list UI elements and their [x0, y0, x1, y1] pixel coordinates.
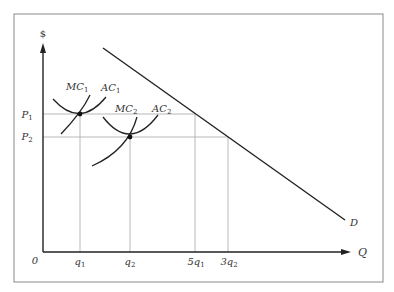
- mc1-curve: [61, 95, 90, 134]
- 5q1-label: 5q1: [187, 256, 204, 269]
- ac1-label: AC1: [100, 82, 120, 95]
- 3q2-label: 3q2: [220, 256, 237, 269]
- x-axis-label: Q: [358, 246, 367, 259]
- firm2-min-point: [128, 135, 133, 140]
- y-axis-label: $: [40, 28, 46, 39]
- mc1-label: MC1: [65, 81, 88, 94]
- q2-label: q2: [125, 256, 136, 269]
- p1-label: P1: [20, 109, 32, 122]
- p2-label: P2: [20, 131, 32, 144]
- guide-lines: [43, 114, 228, 252]
- cost-demand-diagram: $ Q 0 P1 P2 q1 q2 5q1 3q2 MC1 AC1 MC2 AC…: [0, 0, 394, 292]
- q1-label: q1: [75, 256, 86, 269]
- demand-curve: [103, 48, 345, 220]
- ac1-curve: [53, 97, 106, 114]
- firm1-min-point: [78, 112, 83, 117]
- ac2-curve: [103, 115, 158, 134]
- origin-label: 0: [32, 255, 39, 266]
- figure-frame: [14, 14, 383, 282]
- demand-label: D: [349, 217, 358, 228]
- x-axis-arrow-icon: [341, 249, 351, 255]
- y-axis-arrow-icon: [40, 43, 46, 53]
